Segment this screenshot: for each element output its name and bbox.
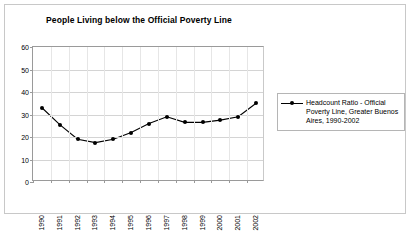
y-axis-tick-label: 0 — [25, 179, 29, 186]
y-axis-tick — [30, 137, 33, 138]
y-axis-tick — [30, 160, 33, 161]
data-point-marker — [76, 137, 80, 141]
x-axis-tick-label: 1999 — [199, 215, 206, 220]
x-axis-tick-label: 1992 — [74, 215, 81, 220]
x-gridline — [247, 47, 248, 180]
y-axis-tick — [30, 47, 33, 48]
y-axis-tick — [30, 92, 33, 93]
x-axis-tick — [140, 180, 141, 183]
x-gridline — [211, 47, 212, 180]
x-axis-tick-label: 1993 — [91, 215, 98, 220]
y-axis-tick — [30, 115, 33, 116]
y-axis-tick — [30, 70, 33, 71]
data-point-marker — [147, 122, 151, 126]
x-axis-tick — [211, 180, 212, 183]
x-axis-tick — [176, 180, 177, 183]
x-gridline — [229, 47, 230, 180]
x-axis-tick-label: 1998 — [181, 215, 188, 220]
data-point-marker — [40, 106, 44, 110]
x-axis-tick-label: 1991 — [56, 215, 63, 220]
x-axis-tick-label: 2001 — [234, 215, 241, 220]
data-point-marker — [254, 101, 258, 105]
legend-label-line2: Poverty Line, Greater Buenos — [306, 107, 398, 116]
x-gridline — [176, 47, 177, 180]
x-gridline — [140, 47, 141, 180]
x-axis-tick-label: 1994 — [109, 215, 116, 220]
line-with-diamond-marker-icon — [281, 99, 303, 108]
x-gridline — [104, 47, 105, 180]
x-axis-tick — [194, 180, 195, 183]
data-point-marker — [111, 137, 115, 141]
x-axis-tick — [104, 180, 105, 183]
x-axis-tick-label: 2002 — [252, 215, 259, 220]
y-axis-tick-label: 50 — [21, 66, 29, 73]
x-axis-tick-label: 1990 — [38, 215, 45, 220]
x-axis-tick — [247, 180, 248, 183]
chart-legend: Headcount Ratio - Official Poverty Line,… — [277, 93, 405, 131]
x-gridline — [51, 47, 52, 180]
x-gridline — [69, 47, 70, 180]
data-point-marker — [218, 118, 222, 122]
x-axis-tick — [69, 180, 70, 183]
data-point-marker — [165, 115, 169, 119]
data-point-marker — [236, 115, 240, 119]
y-axis-tick-label: 20 — [21, 134, 29, 141]
data-point-marker — [201, 120, 205, 124]
x-axis-tick-label: 1996 — [145, 215, 152, 220]
x-axis-tick — [87, 180, 88, 183]
legend-label-line1: Headcount Ratio - Official — [306, 98, 398, 107]
y-axis-tick-label: 60 — [21, 44, 29, 51]
x-axis-tick — [51, 180, 52, 183]
x-axis-tick-label: 1995 — [127, 215, 134, 220]
x-axis-tick — [229, 180, 230, 183]
data-point-marker — [129, 131, 133, 135]
x-gridline — [194, 47, 195, 180]
y-axis-tick-label: 30 — [21, 111, 29, 118]
x-gridline — [158, 47, 159, 180]
data-point-marker — [93, 141, 97, 145]
x-axis-tick — [33, 180, 34, 183]
x-axis-tick — [158, 180, 159, 183]
chart-title: People Living below the Official Poverty… — [5, 15, 273, 25]
legend-entry-label: Headcount Ratio - Official Poverty Line,… — [306, 98, 398, 125]
x-axis-tick-label: 2000 — [216, 215, 223, 220]
data-point-marker — [183, 120, 187, 124]
y-axis-tick-label: 10 — [21, 156, 29, 163]
chart-frame: People Living below the Official Poverty… — [4, 4, 406, 214]
x-axis-tick-label: 1997 — [163, 215, 170, 220]
data-point-marker — [58, 123, 62, 127]
x-gridline — [122, 47, 123, 180]
plot-area: 0102030405060199019911992199319941995199… — [32, 46, 264, 181]
legend-label-line3: Aires, 1990-2002 — [306, 116, 398, 125]
x-gridline — [87, 47, 88, 180]
y-axis-tick-label: 40 — [21, 89, 29, 96]
x-axis-tick — [122, 180, 123, 183]
